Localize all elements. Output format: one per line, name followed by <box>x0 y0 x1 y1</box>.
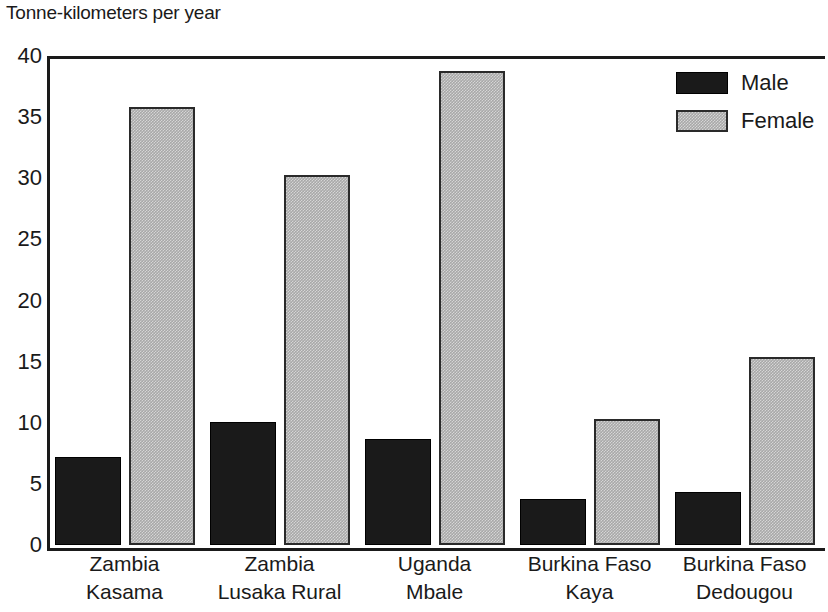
bar-male <box>365 439 431 545</box>
x-category-line1: Zambia <box>244 552 314 575</box>
y-tick-label: 25 <box>2 228 42 250</box>
x-category-line2: Kaya <box>512 578 667 606</box>
bar-female <box>284 175 350 545</box>
y-axis-labels: 0510152025303540 <box>0 0 42 612</box>
bar-female <box>749 357 815 545</box>
bar-female <box>129 107 195 545</box>
bar-male <box>520 499 586 545</box>
bar-female <box>439 71 505 545</box>
y-tick-label: 5 <box>2 473 42 495</box>
x-axis-category-label: Burkina FasoDedougou <box>667 550 822 606</box>
y-tick-label: 20 <box>2 290 42 312</box>
x-category-line2: Mbale <box>357 578 512 606</box>
y-tick-label: 40 <box>2 45 42 67</box>
x-axis-category-label: ZambiaLusaka Rural <box>202 550 357 606</box>
legend-label-male: Male <box>741 72 789 94</box>
x-axis-labels: ZambiaKasamaZambiaLusaka RuralUgandaMbal… <box>47 550 822 612</box>
x-category-line1: Uganda <box>398 552 472 575</box>
bar-group <box>512 56 667 545</box>
x-category-line2: Kasama <box>47 578 202 606</box>
y-tick-label: 10 <box>2 412 42 434</box>
x-category-line1: Zambia <box>89 552 159 575</box>
bar-group <box>47 56 202 545</box>
x-category-line1: Burkina Faso <box>683 552 807 575</box>
legend-item-female: Female <box>676 104 826 138</box>
legend-swatch-female <box>676 110 728 132</box>
x-category-line1: Burkina Faso <box>528 552 652 575</box>
legend-swatch-male <box>676 72 728 94</box>
bar-group <box>202 56 357 545</box>
bar-male <box>675 492 741 545</box>
x-axis-category-label: Burkina FasoKaya <box>512 550 667 606</box>
x-axis-category-label: UgandaMbale <box>357 550 512 606</box>
bar-male <box>210 422 276 545</box>
bar-female <box>594 419 660 545</box>
bar-group <box>357 56 512 545</box>
legend-label-female: Female <box>741 110 814 132</box>
y-tick-label: 30 <box>2 167 42 189</box>
chart-legend: MaleFemale <box>676 66 826 142</box>
y-tick-label: 0 <box>2 534 42 556</box>
bar-male <box>55 457 121 545</box>
x-axis-category-label: ZambiaKasama <box>47 550 202 606</box>
bar-chart: Tonne-kilometers per year 05101520253035… <box>0 0 828 612</box>
y-tick-label: 35 <box>2 106 42 128</box>
y-tick-label: 15 <box>2 351 42 373</box>
x-category-line2: Lusaka Rural <box>202 578 357 606</box>
x-category-line2: Dedougou <box>667 578 822 606</box>
legend-item-male: Male <box>676 66 826 100</box>
